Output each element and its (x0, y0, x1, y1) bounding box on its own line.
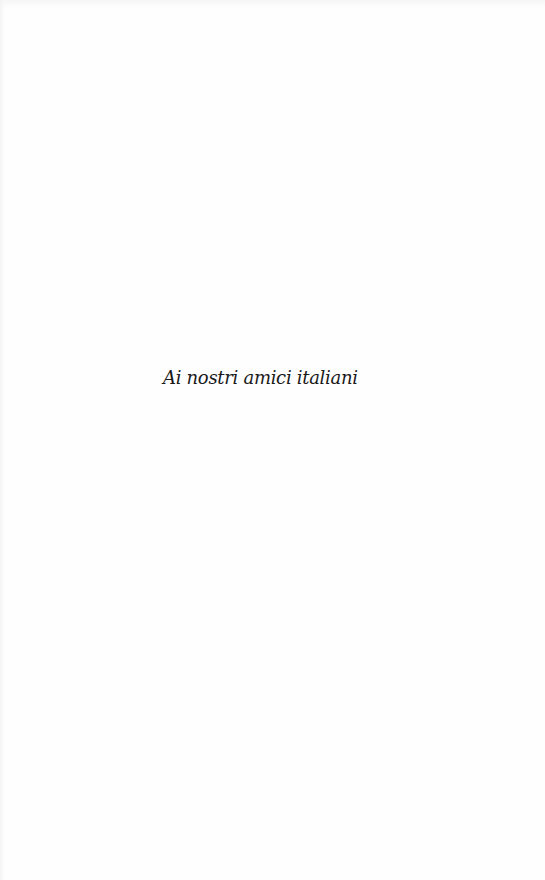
page-edge-left (0, 0, 5, 880)
dedication-text: Ai nostri amici italiani (163, 364, 423, 392)
book-page: Ai nostri amici italiani (0, 0, 545, 880)
page-edge-top (0, 0, 545, 8)
